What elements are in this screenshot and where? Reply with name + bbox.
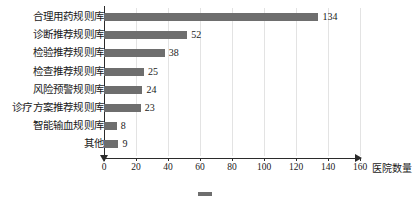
x-tick-label: 80 [217, 162, 247, 172]
category-label: 诊疗方案推荐规则库 [12, 99, 104, 117]
bar-row: 智能输血规则库8 [0, 117, 420, 135]
bar [104, 104, 141, 112]
bar [104, 122, 117, 130]
category-label: 合理用药规则库 [33, 8, 104, 26]
category-label: 其他 [84, 135, 104, 153]
x-axis-title: 医院数量 [372, 160, 412, 175]
bar [104, 86, 142, 94]
bar-row: 诊断推荐规则库52 [0, 26, 420, 44]
bar-row: 诊疗方案推荐规则库23 [0, 99, 420, 117]
bar [104, 140, 118, 148]
bar-value-label: 38 [165, 44, 179, 62]
x-axis-line [104, 158, 356, 159]
bar-value-label: 8 [117, 117, 126, 135]
bar-value-label: 24 [142, 81, 156, 99]
category-label: 诊断推荐规则库 [33, 26, 104, 44]
category-label: 检查推荐规则库 [33, 63, 104, 81]
category-label: 检验推荐规则库 [33, 44, 104, 62]
bar-row: 检验推荐规则库38 [0, 44, 420, 62]
caption-mark-icon [198, 192, 212, 196]
bar-value-label: 9 [118, 135, 127, 153]
x-tick-label: 20 [121, 162, 151, 172]
x-tick-label: 160 [345, 162, 375, 172]
x-tick [328, 158, 329, 161]
x-tick [104, 158, 105, 161]
x-tick-label: 60 [185, 162, 215, 172]
bar-row: 检查推荐规则库25 [0, 63, 420, 81]
bar-value-label: 25 [144, 63, 158, 81]
x-tick [296, 158, 297, 161]
x-tick-label: 100 [249, 162, 279, 172]
bar-row: 其他9 [0, 135, 420, 153]
category-label: 智能输血规则库 [33, 117, 104, 135]
bar [104, 31, 187, 39]
x-tick [232, 158, 233, 161]
x-tick-label: 120 [281, 162, 311, 172]
category-label: 风险预警规则库 [33, 81, 104, 99]
bar-value-label: 23 [141, 99, 155, 117]
bar [104, 68, 144, 76]
bar-value-label: 134 [318, 8, 337, 26]
x-tick-label: 0 [89, 162, 119, 172]
x-tick [360, 158, 361, 161]
bar-value-label: 52 [187, 26, 201, 44]
x-tick [136, 158, 137, 161]
bar-row: 合理用药规则库134 [0, 8, 420, 26]
x-tick [168, 158, 169, 161]
bar [104, 49, 165, 57]
x-tick [264, 158, 265, 161]
x-tick-label: 140 [313, 162, 343, 172]
x-tick [200, 158, 201, 161]
bar-chart: 合理用药规则库134诊断推荐规则库52检验推荐规则库38检查推荐规则库25风险预… [0, 0, 420, 198]
x-tick-label: 40 [153, 162, 183, 172]
bar [104, 13, 318, 21]
figure-caption [0, 188, 420, 198]
bar-row: 风险预警规则库24 [0, 81, 420, 99]
